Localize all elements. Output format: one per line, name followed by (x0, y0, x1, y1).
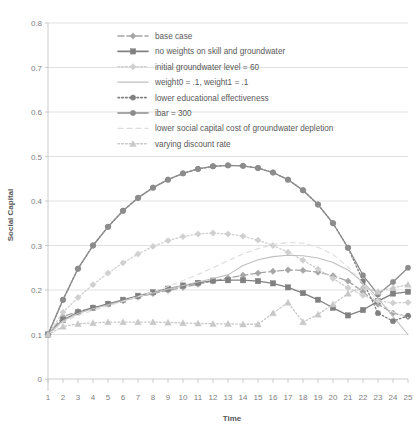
legend-item[interactable]: no weights on skill and groundwater (118, 47, 285, 56)
data-point-marker (210, 164, 215, 169)
data-point-marker (300, 267, 306, 273)
legend-item[interactable]: lower social capital cost of groundwater… (118, 124, 334, 133)
data-point-marker (390, 300, 396, 306)
y-tick-label: 0.5 (31, 153, 43, 162)
legend-marker-sample (130, 95, 135, 100)
legend-label: no weights on skill and groundwater (155, 47, 285, 56)
x-tick-label: 2 (61, 393, 66, 402)
xtick-label-group: 1234567891011121314151617181920212223242… (46, 379, 413, 402)
x-tick-label: 19 (314, 393, 323, 402)
series-4 (45, 163, 410, 337)
x-tick-label: 22 (359, 393, 368, 402)
data-point-marker (255, 165, 260, 170)
x-tick-label: 16 (269, 393, 278, 402)
social-capital-line-chart: 00.10.20.30.40.50.60.70.8 12345678910111… (0, 0, 417, 429)
data-point-marker (75, 266, 80, 271)
data-point-marker (165, 237, 171, 243)
data-point-marker (270, 170, 275, 175)
x-tick-label: 12 (209, 393, 218, 402)
x-tick-label: 4 (91, 393, 96, 402)
data-point-marker (150, 185, 155, 190)
legend-item[interactable]: varying discount rate (118, 140, 231, 149)
series-line (48, 165, 408, 334)
x-tick-label: 13 (224, 393, 233, 402)
data-point-marker (270, 268, 276, 274)
data-point-marker (225, 278, 230, 283)
x-tick-label: 14 (239, 393, 248, 402)
legend-label: lower social capital cost of groundwater… (155, 124, 334, 133)
legend-item[interactable]: lower educational effectiveness (118, 94, 269, 103)
x-tick-label: 23 (374, 393, 383, 402)
data-point-marker (210, 230, 216, 236)
legend-label: lower educational effectiveness (155, 94, 269, 103)
data-point-marker (285, 249, 291, 255)
data-point-marker (375, 310, 380, 315)
data-point-marker (270, 310, 277, 316)
data-point-marker (315, 311, 322, 317)
y-tick-label: 0.8 (31, 19, 43, 28)
series-line (48, 285, 408, 335)
data-point-marker (180, 171, 185, 176)
legend-label: initial groundwater level = 60 (155, 63, 259, 72)
series-5 (45, 163, 410, 337)
x-tick-label: 9 (166, 393, 171, 402)
y-tick-label: 0.3 (31, 242, 43, 251)
data-point-marker (405, 299, 411, 305)
x-tick-label: 11 (194, 393, 203, 402)
series-group (45, 163, 412, 338)
data-point-marker (390, 318, 395, 323)
legend-marker-sample (130, 110, 135, 115)
data-point-marker (150, 319, 157, 325)
x-axis-title: Time (223, 414, 242, 423)
data-point-marker (285, 299, 292, 305)
x-tick-label: 18 (299, 393, 308, 402)
ytick-label-group: 00.10.20.30.40.50.60.70.8 (31, 19, 43, 384)
data-point-marker (300, 257, 306, 263)
legend: base caseno weights on skill and groundw… (118, 32, 334, 149)
data-point-marker (90, 243, 95, 248)
legend-marker-sample (130, 33, 136, 39)
data-point-marker (285, 267, 291, 273)
data-point-marker (315, 297, 320, 302)
x-tick-label: 24 (389, 393, 398, 402)
y-tick-label: 0.7 (31, 64, 43, 73)
x-tick-label: 8 (151, 393, 156, 402)
data-point-marker (300, 188, 305, 193)
data-point-marker (345, 245, 350, 250)
data-point-marker (225, 231, 231, 237)
data-point-marker (345, 290, 352, 296)
legend-label: weight0 = .1, weight1 = .1 (154, 78, 249, 87)
x-tick-label: 5 (106, 393, 111, 402)
data-point-marker (345, 313, 350, 318)
y-tick-label: 0.2 (31, 286, 43, 295)
data-point-marker (255, 237, 261, 243)
y-tick-label: 0.6 (31, 108, 43, 117)
data-point-marker (270, 242, 276, 248)
x-tick-label: 20 (329, 393, 338, 402)
data-point-marker (360, 273, 365, 278)
y-axis-title: Social Capital (6, 189, 15, 241)
data-point-marker (300, 290, 305, 295)
series-line (48, 233, 408, 334)
data-point-marker (240, 233, 246, 239)
data-point-marker (285, 285, 290, 290)
legend-item[interactable]: ibar = 300 (118, 109, 192, 118)
data-point-marker (270, 281, 275, 286)
data-point-marker (360, 307, 365, 312)
data-point-marker (105, 224, 110, 229)
data-point-marker (405, 281, 412, 287)
data-point-marker (195, 231, 201, 237)
data-point-marker (225, 163, 230, 168)
data-point-marker (120, 260, 126, 266)
x-tick-label: 1 (46, 393, 51, 402)
data-point-marker (255, 270, 261, 276)
legend-item[interactable]: base case (118, 32, 193, 41)
data-point-marker (390, 279, 395, 284)
legend-label: base case (155, 32, 193, 41)
data-point-marker (60, 297, 65, 302)
data-point-marker (390, 291, 395, 296)
x-tick-label: 15 (254, 393, 263, 402)
data-point-marker (135, 251, 141, 257)
legend-item[interactable]: initial groundwater level = 60 (118, 63, 259, 72)
legend-item[interactable]: weight0 = .1, weight1 = .1 (118, 78, 249, 87)
